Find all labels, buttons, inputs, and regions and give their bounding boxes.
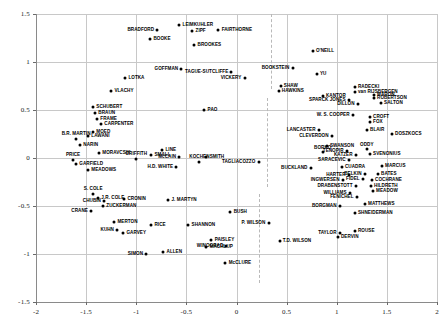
data-point [156, 29, 159, 32]
point-label: MEADOWS [91, 168, 116, 173]
data-point [92, 193, 95, 196]
data-point [149, 37, 152, 40]
x-axis-tick [186, 302, 187, 305]
data-point [317, 129, 320, 132]
point-label: HAWKINS [282, 89, 304, 94]
data-point [363, 173, 366, 176]
data-point [353, 90, 356, 93]
point-label: FIDEL [346, 177, 360, 182]
point-label: SVENONIUS [373, 152, 401, 157]
point-label: CRANE [71, 209, 88, 214]
data-point [135, 157, 138, 160]
point-label: BUSH [234, 209, 247, 214]
point-label: BOOKE [153, 37, 170, 42]
data-point [330, 134, 333, 137]
data-point [368, 153, 371, 156]
point-label: FENICHEL [330, 195, 353, 200]
data-point [390, 133, 393, 136]
x-axis-tick [387, 302, 388, 305]
point-label: SHNEIDERMAN [358, 210, 393, 215]
point-label: GRIFFITH [125, 152, 147, 157]
point-label: BORGMAN [312, 204, 337, 209]
gridline-horizontal [36, 254, 437, 255]
point-label: BUCKLAND [281, 165, 307, 170]
y-axis-tick-label: 0 [6, 154, 30, 162]
data-point [355, 196, 358, 199]
data-point [361, 178, 364, 181]
point-label: BLAIR [370, 128, 384, 133]
point-label: DILLON [337, 102, 354, 107]
data-point [380, 164, 383, 167]
data-point [92, 106, 95, 109]
point-label: DERVIN [341, 234, 359, 239]
data-point [145, 253, 148, 256]
data-point [75, 137, 78, 140]
point-label: PAISLEY [215, 237, 235, 242]
data-point [210, 238, 213, 241]
point-label: BRADFORD [127, 28, 154, 33]
data-point [354, 184, 357, 187]
data-point [72, 158, 75, 161]
point-label: PRICE [66, 153, 80, 158]
x-axis-tick [36, 302, 37, 305]
x-axis-tick-label: -2 [33, 308, 39, 316]
data-point [205, 246, 208, 249]
data-point [353, 229, 356, 232]
point-label: NARIN [83, 142, 98, 147]
point-label: MARCUS [385, 163, 405, 168]
data-point [341, 179, 344, 182]
point-label: LEIMKUHLER [183, 22, 214, 27]
data-point [369, 184, 372, 187]
data-point [243, 77, 246, 80]
point-label: CHUBIN [83, 199, 101, 204]
x-axis-tick [237, 302, 238, 305]
x-axis-tick [437, 302, 438, 305]
point-label: ZIPF [196, 29, 206, 34]
point-label: SARACEVIC [318, 158, 346, 163]
point-label: W. S. COOPER [317, 113, 350, 118]
data-point [368, 121, 371, 124]
point-label: CARPENTER [104, 122, 133, 127]
gridline-vertical [437, 14, 438, 302]
gridline-horizontal [36, 14, 437, 15]
scatter-plot-figure: -2-1.5-1-0.500.511.52-1.5-1-0.500.511.5L… [0, 0, 445, 335]
data-point [336, 235, 339, 238]
point-label: P. WILSON [242, 221, 266, 226]
point-label: ODDY [360, 142, 373, 147]
data-point [379, 102, 382, 105]
data-point [103, 200, 106, 203]
data-point [291, 66, 294, 69]
x-axis-tick-label: -1 [133, 308, 139, 316]
x-axis-tick-label: 1.5 [382, 308, 391, 316]
point-label: LAWANI [91, 134, 109, 139]
point-label: DRABENSTOTT [317, 184, 352, 189]
point-label: BROOKES [198, 42, 222, 47]
data-point [193, 43, 196, 46]
point-label: CLEVERDON [299, 134, 328, 139]
data-point [180, 67, 183, 70]
point-label: PAO [208, 108, 218, 113]
point-label: LOTKA [128, 76, 144, 81]
data-point [175, 165, 178, 168]
data-point [277, 89, 280, 92]
y-axis-tick-label: 1 [6, 58, 30, 66]
point-label: McCAIN [158, 155, 176, 160]
point-label: MATTHEWS [368, 202, 395, 207]
data-point [353, 211, 356, 214]
y-axis-tick [33, 14, 36, 15]
data-point [75, 162, 78, 165]
point-label: GOFFMAN [155, 66, 179, 71]
x-axis-tick-label: 2 [435, 308, 439, 316]
point-label: ROUSE [358, 229, 375, 234]
point-label: H.D. WHITE [147, 164, 173, 169]
data-point [257, 160, 260, 163]
data-point [372, 97, 375, 100]
data-point [178, 156, 181, 159]
y-axis-tick-label: 1.5 [6, 10, 30, 18]
point-label: SIMON [128, 252, 143, 257]
y-axis-tick [33, 110, 36, 111]
y-axis-tick-label: -1 [6, 250, 30, 258]
data-point [230, 70, 233, 73]
data-point [203, 109, 206, 112]
x-axis-tick-label: 1 [335, 308, 339, 316]
